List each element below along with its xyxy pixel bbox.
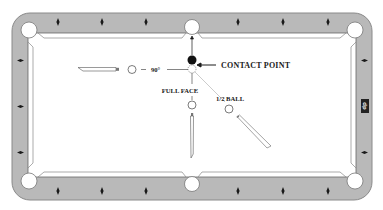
pocket-top-middle bbox=[185, 20, 200, 35]
angle-label: 90° bbox=[151, 66, 161, 73]
pocket-bottom-right bbox=[347, 173, 363, 189]
pocket-top-right bbox=[347, 22, 363, 38]
pool-table-diagram: dp CONTACT POINT 90° FULL FACE bbox=[0, 0, 383, 210]
rail-badge: dp bbox=[361, 99, 369, 113]
cue-ball-half-ball bbox=[225, 105, 233, 113]
cue-ball-90 bbox=[128, 66, 136, 74]
contact-point-label: CONTACT POINT bbox=[221, 61, 291, 70]
half-ball-label: 1/2 BALL bbox=[216, 95, 245, 102]
svg-text:dp: dp bbox=[362, 102, 368, 110]
cue-stick-90 bbox=[78, 68, 119, 72]
full-face-label: FULL FACE bbox=[162, 87, 199, 94]
pocket-bottom-left bbox=[21, 173, 37, 189]
cue-stick-full-face bbox=[191, 113, 194, 158]
pocket-bottom-middle bbox=[185, 177, 200, 192]
object-ball bbox=[188, 56, 197, 65]
cue-ball-full-face bbox=[188, 101, 196, 109]
pocket-top-left bbox=[21, 22, 37, 38]
